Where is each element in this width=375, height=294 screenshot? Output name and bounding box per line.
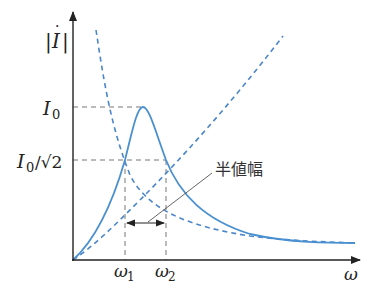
svg-text:I: I [42,97,51,119]
svg-text:0: 0 [52,107,60,122]
svg-text:2: 2 [168,270,176,284]
svg-text:|: | [62,29,69,54]
svg-text:I: I [16,150,25,172]
y-tick-label-half-power: I 0 /√2 [16,150,62,175]
y-tick-label-peak: I 0 [42,97,60,122]
half-width-annotation: 半値幅 [215,160,263,179]
x-tick-label-omega1: ω 1 [114,261,135,284]
y-axis-label: | I · | [45,18,69,54]
resonance-diagram: | I · | I 0 I 0 /√2 ω 1 ω 2 ω 半値幅 [0,0,375,294]
x-tick-label-omega2: ω 2 [155,261,176,284]
svg-text:·: · [55,18,59,34]
dashed-decreasing-curve [96,30,355,243]
dashed-increasing-curve [73,36,283,260]
svg-text:1: 1 [127,270,135,284]
svg-text:0: 0 [26,160,34,175]
guide-lines [73,107,166,260]
svg-text:/√2: /√2 [35,152,62,172]
svg-text:|: | [45,29,52,54]
x-axis-label: ω [344,264,358,284]
annotation-leader-line [148,173,212,222]
svg-text:ω: ω [114,261,128,281]
svg-text:ω: ω [155,261,169,281]
